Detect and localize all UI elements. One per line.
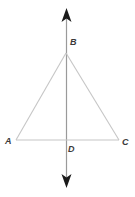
vertex-label-b: B [70,37,77,47]
vertex-label-d: D [68,144,75,154]
vertex-label-a: A [5,136,12,146]
segment-ab [16,53,66,140]
geometry-figure: A B C D [0,0,135,197]
vertex-label-c: C [122,137,129,147]
geometry-canvas [0,0,135,197]
segment-bc [66,53,119,140]
